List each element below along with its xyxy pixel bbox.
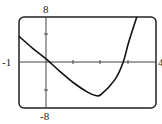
plot-area bbox=[0, 0, 162, 124]
x-min-label: -1 bbox=[2, 57, 11, 68]
x-max-label: 4 bbox=[158, 57, 162, 68]
y-max-label: 8 bbox=[43, 4, 49, 15]
function-curve bbox=[19, 17, 137, 96]
y-min-label: -8 bbox=[40, 111, 49, 122]
